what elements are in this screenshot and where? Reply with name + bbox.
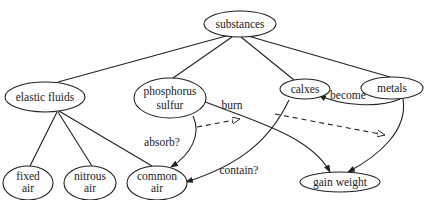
svg-text:sulfur: sulfur bbox=[157, 99, 184, 111]
edge-label-burn: burn bbox=[221, 99, 242, 111]
node-phosphorus-sulfur: phosphorus sulfur bbox=[134, 78, 206, 118]
svg-text:calxes: calxes bbox=[291, 83, 320, 95]
edge-label-contain: contain? bbox=[220, 164, 259, 176]
node-nitrous-air: nitrous air bbox=[64, 166, 116, 200]
edge-elastic-common-air bbox=[59, 111, 152, 166]
svg-text:phosphorus: phosphorus bbox=[143, 85, 197, 98]
edge-substances-metals bbox=[248, 36, 390, 77]
edge-burn bbox=[203, 101, 330, 172]
svg-text:substances: substances bbox=[215, 18, 265, 30]
node-substances: substances bbox=[204, 11, 276, 37]
edge-substances-phosphorus bbox=[173, 37, 232, 78]
edge-metals-gain-weight bbox=[348, 99, 404, 172]
edge-dashed-absorb-to-burn bbox=[197, 119, 240, 127]
edge-dashed-contain-to-metals bbox=[275, 114, 385, 135]
concept-graph: burn absorb? contain? become substances … bbox=[0, 0, 428, 200]
edge-elastic-fixed-air bbox=[30, 112, 57, 166]
svg-text:nitrous: nitrous bbox=[74, 170, 106, 182]
node-fixed-air: fixed air bbox=[3, 166, 53, 200]
node-calxes: calxes bbox=[280, 79, 330, 99]
svg-text:elastic fluids: elastic fluids bbox=[16, 91, 75, 103]
node-gain-weight: gain weight bbox=[300, 172, 380, 192]
edge-label-become: become bbox=[330, 89, 366, 101]
edge-label-absorb: absorb? bbox=[144, 136, 180, 148]
svg-text:air: air bbox=[22, 182, 34, 194]
node-metals: metals bbox=[361, 77, 423, 99]
node-elastic-fluids: elastic fluids bbox=[5, 82, 85, 112]
svg-text:air: air bbox=[151, 182, 163, 194]
svg-text:air: air bbox=[84, 182, 96, 194]
svg-text:gain weight: gain weight bbox=[313, 176, 368, 189]
svg-text:metals: metals bbox=[377, 82, 408, 94]
svg-text:common: common bbox=[137, 170, 177, 182]
node-common-air: common air bbox=[127, 166, 187, 200]
svg-text:fixed: fixed bbox=[16, 170, 40, 182]
edge-substances-calxes bbox=[241, 37, 294, 80]
